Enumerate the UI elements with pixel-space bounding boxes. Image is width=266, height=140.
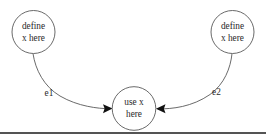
dataflow-figure: e1 e2 define x here define x here use x … (0, 0, 266, 140)
node-define-left-line2: x here (22, 33, 45, 43)
node-use-center-line1: use x (124, 97, 144, 107)
node-define-left-line1: define (22, 21, 45, 31)
node-define-right-line1: define (221, 21, 244, 31)
node-define-right: define x here (211, 11, 254, 54)
node-define-right-line2: x here (221, 33, 244, 43)
diagram-canvas: e1 e2 define x here define x here use x … (0, 0, 266, 140)
edge-e1: e1 (33, 54, 113, 114)
edge-e1-curve (33, 54, 110, 109)
edge-e1-label: e1 (45, 88, 54, 98)
edge-e2-curve (159, 54, 233, 109)
edge-e2: e2 (156, 54, 232, 114)
node-define-left: define x here (12, 11, 55, 54)
node-use-center-line2: here (126, 109, 142, 119)
edge-e2-label: e2 (212, 87, 221, 97)
node-use-center: use x here (112, 87, 156, 131)
